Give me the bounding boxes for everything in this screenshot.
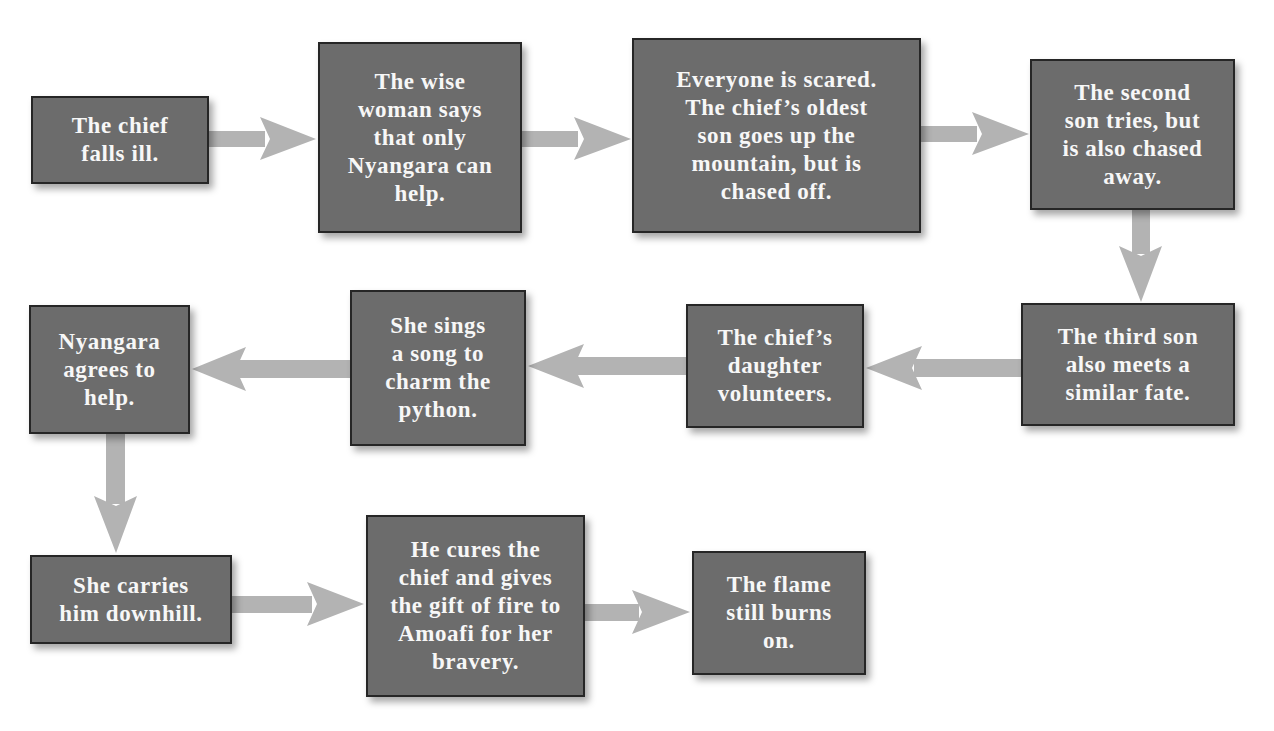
step-1-chief-falls-ill: The chief falls ill. xyxy=(31,96,209,184)
step-text: He cures the chief and gives the gift of… xyxy=(390,536,561,676)
step-6-daughter-volunteers: The chief’s daughter volunteers. xyxy=(686,304,864,428)
step-text: She sings a song to charm the python. xyxy=(385,312,491,424)
step-10-cures-chief: He cures the chief and gives the gift of… xyxy=(366,515,585,697)
step-text: Everyone is scared. The chief’s oldest s… xyxy=(676,66,877,206)
step-text: The wise woman says that only Nyangara c… xyxy=(348,68,493,208)
flowchart-canvas: The chief falls ill. The wise woman says… xyxy=(0,0,1274,731)
step-text: The third son also meets a similar fate. xyxy=(1058,323,1199,407)
step-text: The flame still burns on. xyxy=(726,571,832,655)
step-text: The chief falls ill. xyxy=(72,112,169,168)
arrow-left-icon xyxy=(192,347,350,391)
step-text: The second son tries, but is also chased… xyxy=(1062,79,1202,191)
step-5-third-son: The third son also meets a similar fate. xyxy=(1021,303,1235,426)
arrow-down-icon xyxy=(1119,210,1162,302)
step-2-wise-woman: The wise woman says that only Nyangara c… xyxy=(318,42,522,233)
arrow-left-icon xyxy=(528,344,686,388)
step-text: The chief’s daughter volunteers. xyxy=(718,324,833,408)
step-text: Nyangara agrees to help. xyxy=(59,328,161,412)
step-3-oldest-son: Everyone is scared. The chief’s oldest s… xyxy=(632,38,921,233)
arrow-right-icon xyxy=(921,112,1029,155)
arrow-right-icon xyxy=(522,117,631,160)
step-7-sings-song: She sings a song to charm the python. xyxy=(350,290,526,446)
arrow-left-icon xyxy=(866,346,1021,390)
arrow-down-icon xyxy=(94,434,137,553)
step-9-carries-downhill: She carries him downhill. xyxy=(30,555,232,644)
step-11-flame-burns-on: The flame still burns on. xyxy=(692,551,866,675)
arrow-right-icon xyxy=(232,582,364,626)
step-text: She carries him downhill. xyxy=(59,572,202,628)
step-8-nyangara-agrees: Nyangara agrees to help. xyxy=(29,305,190,434)
step-4-second-son: The second son tries, but is also chased… xyxy=(1030,59,1235,210)
arrow-right-icon xyxy=(209,117,316,160)
arrow-right-icon xyxy=(585,590,690,634)
